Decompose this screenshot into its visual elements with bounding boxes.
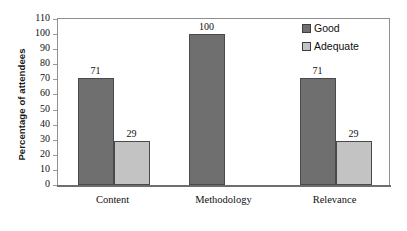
y-tick-label: 100: [35, 27, 50, 38]
legend-label: Adequate: [314, 41, 359, 52]
legend-swatch-icon: [302, 24, 311, 33]
legend-item[interactable]: Adequate: [302, 40, 359, 53]
bar-value-label: 71: [313, 65, 323, 76]
bar[interactable]: [336, 141, 372, 185]
bar-slot: 100: [189, 19, 225, 185]
bar-value-label: 71: [91, 65, 101, 76]
x-axis-category-label: Methodology: [168, 194, 279, 205]
x-axis-category-label: Relevance: [279, 194, 390, 205]
y-tick-label: 10: [40, 163, 50, 174]
bar[interactable]: [300, 78, 336, 185]
y-tick-label: 40: [40, 118, 50, 129]
bar-chart: Percentage of attendees 1101009080706050…: [0, 0, 407, 231]
bar[interactable]: [78, 78, 114, 185]
y-tick-label: 60: [40, 87, 50, 98]
y-tick-label: 50: [40, 103, 50, 114]
y-tick-label: 30: [40, 133, 50, 144]
bar[interactable]: [114, 141, 150, 185]
bar-slot: 29: [114, 19, 150, 185]
x-axis-baseline: [57, 185, 391, 187]
legend-item[interactable]: Good: [302, 22, 359, 35]
y-tick-label: 110: [35, 12, 50, 23]
bar-value-label: 100: [199, 21, 214, 32]
legend-label: Good: [314, 23, 340, 34]
bar-group: 100: [169, 19, 280, 185]
bar-slot: 71: [78, 19, 114, 185]
y-axis: 1101009080706050403020100: [0, 0, 57, 231]
y-tick-label: 70: [40, 72, 50, 83]
bar-slot: [225, 19, 261, 185]
bar-value-label: 29: [349, 128, 359, 139]
y-tick-label: 80: [40, 57, 50, 68]
x-axis-category-label: Content: [57, 194, 168, 205]
legend: GoodAdequate: [302, 22, 359, 58]
y-tick-label: 90: [40, 42, 50, 53]
bar-value-label: 29: [127, 128, 137, 139]
bar[interactable]: [189, 34, 225, 185]
legend-swatch-icon: [302, 42, 311, 51]
y-tick-label: 20: [40, 148, 50, 159]
y-tick-label: 0: [45, 178, 50, 189]
bar-group: 7129: [58, 19, 169, 185]
